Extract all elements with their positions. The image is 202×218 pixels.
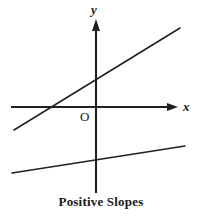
y-axis-label: y [91,3,97,16]
positive-slopes-figure: y x O Positive Slopes [0,0,202,218]
x-axis-arrowhead [167,103,178,111]
x-axis-group [11,103,178,111]
y-axis-arrowhead [92,19,100,31]
shallow-positive-slope-line [12,146,185,173]
origin-label: O [80,110,89,123]
coordinate-graph [0,0,202,218]
figure-caption: Positive Slopes [0,195,202,210]
x-axis-label: x [183,100,190,113]
